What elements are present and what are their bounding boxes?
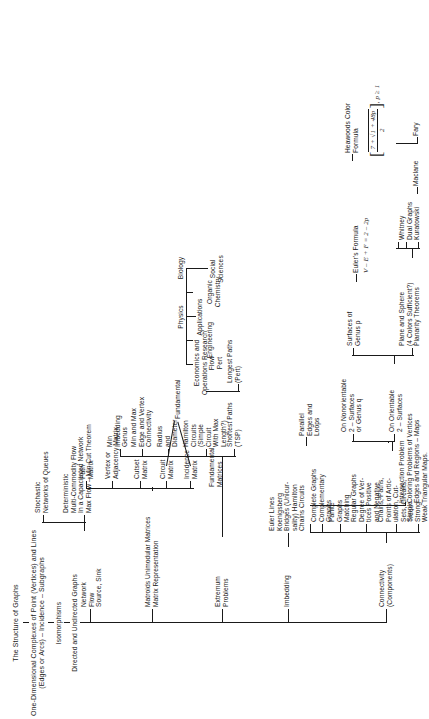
matrix-cutset: Cutset Matrix bbox=[133, 427, 148, 479]
title-connector-1 bbox=[23, 622, 29, 623]
apps-stub-phys bbox=[186, 316, 193, 317]
isomorphisms-node: Isomorphisms bbox=[55, 583, 63, 663]
coloring-on-orientable: On Orientable 2 – Surfaces bbox=[388, 360, 403, 432]
planarity-whitney: Whitney Dual Graphs bbox=[398, 194, 413, 240]
branch-matroids: Matroids Unimodular Matrices Matrix Repr… bbox=[144, 491, 159, 607]
matrix-fundamental: Fundamental bbox=[174, 363, 182, 419]
matrices-bus-stem bbox=[152, 487, 153, 491]
maclane-stub bbox=[398, 242, 399, 249]
whitney-stub bbox=[406, 242, 407, 249]
conn-child-stub-5b bbox=[306, 437, 307, 446]
plane-genus-bus bbox=[352, 355, 414, 356]
planarity-bus bbox=[396, 248, 420, 249]
conn-child-stub-1 bbox=[396, 524, 397, 533]
application-physics: Physics bbox=[177, 293, 185, 341]
imbedding-stem bbox=[288, 533, 289, 547]
heawood-formula: [7 + √1 + 48p2], p ≥ 1 bbox=[360, 47, 386, 157]
coloring-on-nonorientable: On Nonorientable 2 – Surfaces or Genus q bbox=[340, 352, 363, 432]
branch-stub-extremum bbox=[222, 609, 223, 623]
heawood-formula-stub bbox=[352, 154, 353, 161]
eulers-formula-stub bbox=[356, 274, 357, 282]
bracket-open: [ bbox=[373, 152, 381, 157]
extremum-longest-paths: Longest Paths (Pert) bbox=[226, 325, 241, 383]
apps-stub-chem bbox=[186, 292, 193, 293]
matrix-stub-2 bbox=[140, 481, 141, 489]
network-stub-deterministic bbox=[84, 515, 85, 523]
network-stochastic: Stochastic Networks of Queues bbox=[34, 411, 49, 513]
conn-child-stub-5 bbox=[310, 524, 311, 533]
eulers-formula-label: Euler's Formula bbox=[352, 203, 360, 273]
planarity-maclane: Maclane bbox=[412, 144, 420, 186]
extremum-stub-1 bbox=[206, 449, 207, 457]
planarity-fary: Fary bbox=[412, 102, 420, 136]
eulers-formula: V – E + F = 2 – 2p bbox=[362, 181, 370, 273]
root-node: Directed and Undirected Graphs bbox=[71, 563, 79, 683]
maclane-stub-b bbox=[417, 187, 418, 194]
page-title: The Structure of Graphs bbox=[12, 533, 20, 713]
coloring-riser bbox=[310, 505, 406, 506]
branch-network-flow: Network Flow Source, Sink bbox=[80, 529, 103, 607]
orientable-stub bbox=[394, 434, 395, 442]
coloring-riser-stem bbox=[405, 502, 406, 506]
coloring-split-bus bbox=[352, 441, 394, 442]
network-bus-stem bbox=[84, 522, 85, 531]
connectivity-bus bbox=[310, 532, 420, 533]
conn-child-complete-graphs: Complete Graphs Complementary Graphs bbox=[310, 440, 333, 522]
apps-stub-econ bbox=[186, 364, 193, 365]
planarity-kuratowski: Kuratowski bbox=[413, 194, 421, 240]
branch-stub-matroids bbox=[152, 609, 153, 623]
heawood-fraction: 7 + √1 + 48p2 bbox=[368, 109, 386, 152]
conn-child-stub-0 bbox=[418, 524, 419, 533]
branch-connectivity: Connectivity (Components) bbox=[378, 543, 393, 607]
matrix-fundamental-matrices: Fundamental Matrices bbox=[208, 427, 223, 487]
coloring-plane-and-sphere: Plane and Sphere (4 Colors Sufficient?) … bbox=[398, 258, 421, 346]
matrix-vertex-adjacency: Vertex or Adjacency Matrix bbox=[104, 405, 119, 479]
page-subtitle-1: One-Dimensional Complexes of Point (Vert… bbox=[30, 527, 38, 719]
branch-extremum: Extremum Problems bbox=[214, 537, 229, 607]
title-connector-2 bbox=[48, 622, 54, 623]
nonorientable-stub bbox=[353, 434, 354, 442]
genus-p-stub bbox=[353, 348, 354, 356]
plane-stub bbox=[412, 348, 413, 356]
planarity-stem bbox=[412, 248, 413, 258]
conn-child-stub-3 bbox=[340, 524, 341, 533]
conn-child-stub-2 bbox=[366, 524, 367, 533]
heawood-denominator: 2 bbox=[378, 109, 386, 152]
conn-child-regular-graphs: Regular Graphs Degree of Ver- tices Posi… bbox=[350, 446, 380, 522]
connectivity-bus-stem bbox=[386, 532, 387, 543]
kuratowski-stub bbox=[418, 242, 419, 249]
application-biology: Biology bbox=[177, 245, 185, 291]
branch-imbedding: Imbedding bbox=[283, 547, 291, 607]
heawood-condition: , p ≥ 1 bbox=[373, 85, 381, 104]
bracket-close: ] bbox=[373, 103, 381, 108]
network-deterministic: Deterministic Multi-Commodity Flow In a … bbox=[62, 381, 92, 513]
apps-stub-eng bbox=[186, 340, 193, 341]
main-spine bbox=[90, 622, 386, 623]
matrix-stub-0 bbox=[190, 481, 191, 489]
network-stub-stochastic bbox=[43, 515, 44, 523]
branch-stub-connectivity bbox=[386, 609, 387, 623]
matrix-stub-3 bbox=[112, 481, 113, 489]
coloring-bus bbox=[388, 442, 389, 443]
extremum-stub-4 bbox=[120, 449, 121, 457]
application-social-sciences: Social Sciences bbox=[209, 243, 224, 295]
network-bus bbox=[42, 522, 86, 523]
coloring-split-stem bbox=[392, 441, 393, 451]
applications-bus bbox=[186, 269, 187, 365]
branch-stub-imbedding bbox=[288, 609, 289, 623]
imbedding-child-euler-lines: Euler Lines Koenigsberg Bridges (Unicur-… bbox=[268, 455, 306, 531]
matrix-stub-1 bbox=[166, 481, 167, 489]
heawood-formula-label: Heawoods Color Formula bbox=[344, 91, 359, 153]
extremum-stub-0 bbox=[234, 449, 235, 457]
branch-stub-network-flow bbox=[90, 609, 91, 623]
page-subtitle-2: (Edges or Arcs) – Incidence – Subgraphs bbox=[38, 527, 46, 719]
fary-maclane-bus bbox=[396, 143, 418, 144]
plane-genus-stem bbox=[394, 355, 395, 364]
conn-child-stub-4 bbox=[322, 524, 323, 533]
application-engineering: Engineering bbox=[206, 311, 214, 369]
heawood-numerator: 7 + √1 + 48p bbox=[368, 109, 378, 152]
coloring-surfaces-genus-p: Surfaces of Genus p bbox=[346, 284, 361, 346]
apps-stub-social bbox=[186, 268, 208, 269]
